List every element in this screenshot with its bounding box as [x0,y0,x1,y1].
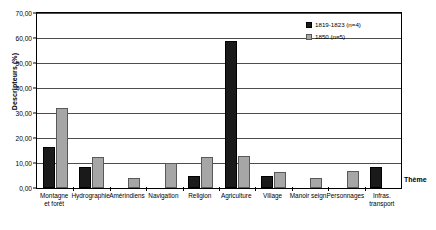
x-axis-title: Thème [404,176,427,183]
bar-group [110,13,146,188]
legend-item: 1850 (n=5) [306,33,361,40]
bar [274,172,286,188]
bar [238,156,250,189]
bar-group [219,13,255,188]
x-axis-tick-label-line: Infras. [355,192,410,200]
legend-swatch-icon [306,22,312,28]
bar-group [146,13,182,188]
y-axis-tick-label: 70,00 [0,10,32,17]
bar [79,167,91,188]
x-axis-labels: Montagneet forêtHydrographieAmérindiensN… [36,192,402,226]
legend-item-label: 1819-1823 (n=4) [315,21,361,28]
y-axis-tick-label: 60,00 [0,35,32,42]
y-axis-tick-label: 30,00 [0,110,32,117]
y-axis-tick-label: 20,00 [0,135,32,142]
bar [165,163,177,188]
bar-group [37,13,73,188]
x-axis-tick-mark [110,187,111,191]
bar [92,157,104,188]
bar-group [365,13,401,188]
x-axis-tick-mark [73,187,74,191]
legend-swatch-icon [306,34,312,40]
bar [128,178,140,188]
bar-group [183,13,219,188]
y-axis-tick-mark [33,13,36,14]
bar [56,108,68,188]
x-axis-tick-mark [365,187,366,191]
bar-group [73,13,109,188]
y-axis-tick-mark [33,88,36,89]
bar [370,167,382,188]
bar-chart: Descripteurs (%) 0,0010,0020,0030,0040,0… [0,0,436,230]
x-axis-tick-label-line: et forêt [27,200,82,208]
bar [347,171,359,189]
y-axis-tick-label: 50,00 [0,60,32,67]
bar [188,176,200,189]
x-axis-tick-mark [292,187,293,191]
y-axis-tick-mark [33,163,36,164]
bar [201,157,213,188]
x-axis-tick-mark [183,187,184,191]
x-axis-tick-label-line: transport [355,200,410,208]
y-axis-tick-mark [33,138,36,139]
y-axis-tick-mark [33,38,36,39]
bar-group [255,13,291,188]
x-axis-tick-mark [219,187,220,191]
x-axis-tick-mark [146,187,147,191]
x-axis-tick-label: Infras.transport [355,192,410,209]
y-axis-tick-label: 0,00 [0,185,32,192]
x-axis-tick-mark [328,187,329,191]
y-axis-tick-mark [33,113,36,114]
x-axis-tick-mark [255,187,256,191]
bar [43,147,55,188]
bar [261,176,273,189]
bar [225,41,237,189]
legend-item: 1819-1823 (n=4) [306,21,361,28]
chart-legend: 1819-1823 (n=4) 1850 (n=5) [306,21,361,40]
legend-item-label: 1850 (n=5) [315,33,345,40]
bar [310,178,322,188]
y-axis-tick-label: 40,00 [0,85,32,92]
y-axis-tick-mark [33,188,36,189]
y-axis-tick-mark [33,63,36,64]
y-axis-tick-label: 10,00 [0,160,32,167]
